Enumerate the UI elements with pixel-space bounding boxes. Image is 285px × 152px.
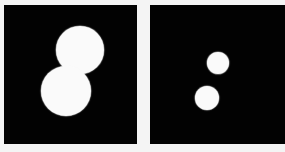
white-blob bbox=[195, 86, 219, 110]
right-panel bbox=[150, 5, 285, 144]
left-panel bbox=[4, 5, 137, 144]
white-blob bbox=[41, 66, 91, 116]
white-blob bbox=[207, 52, 229, 74]
